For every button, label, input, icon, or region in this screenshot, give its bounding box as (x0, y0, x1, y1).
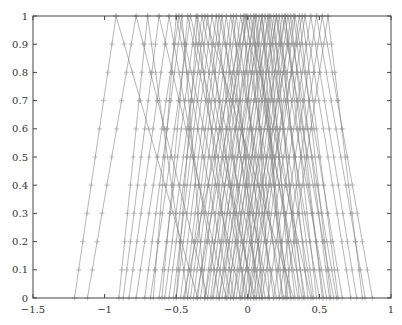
plus-marker (104, 183, 109, 188)
plus-marker (130, 267, 135, 272)
plus-marker (142, 183, 147, 188)
plus-marker (315, 42, 320, 47)
y-tick-label: 1 (22, 11, 28, 22)
plus-marker (278, 126, 283, 131)
plus-marker (139, 155, 144, 160)
plus-marker (174, 239, 179, 244)
plus-marker (89, 183, 94, 188)
x-tick-label: −1 (97, 304, 112, 315)
plus-marker (365, 267, 370, 272)
y-tick-label: 0.7 (12, 95, 28, 106)
y-tick-label: 0.4 (12, 180, 28, 191)
plus-marker (128, 239, 133, 244)
plus-marker (119, 267, 124, 272)
plus-marker (287, 183, 292, 188)
plus-marker (305, 126, 310, 131)
plus-marker (311, 70, 316, 75)
plus-marker (220, 70, 225, 75)
plus-marker (199, 98, 204, 103)
y-tick-label: 0.5 (12, 152, 28, 163)
plus-marker (84, 211, 89, 216)
plus-marker (129, 42, 134, 47)
plus-marker (128, 183, 133, 188)
plus-marker (146, 267, 151, 272)
plus-marker (350, 267, 355, 272)
plus-marker (230, 42, 235, 47)
plus-marker (114, 126, 119, 131)
plus-marker (80, 239, 85, 244)
plus-marker (153, 211, 158, 216)
y-tick-label: 0.1 (12, 264, 28, 275)
plus-marker (262, 126, 267, 131)
plus-marker (134, 239, 139, 244)
y-tick-label: 0.8 (12, 67, 28, 78)
plus-marker (171, 42, 176, 47)
plus-marker (317, 70, 322, 75)
x-tick-label: 1 (388, 304, 394, 315)
y-tick-label: 0.2 (12, 236, 28, 247)
plus-marker (135, 183, 140, 188)
plus-marker (334, 126, 339, 131)
plus-marker (339, 126, 344, 131)
plus-marker (344, 267, 349, 272)
plus-marker (321, 126, 326, 131)
plus-marker (97, 126, 102, 131)
plus-marker (131, 211, 136, 216)
y-tick-label: 0.3 (12, 208, 28, 219)
plus-marker (119, 98, 124, 103)
plus-marker (170, 267, 175, 272)
plus-marker (125, 211, 130, 216)
x-tick-label: −1.5 (21, 304, 45, 315)
plus-marker (304, 239, 309, 244)
plus-marker (180, 211, 185, 216)
plus-marker (206, 42, 211, 47)
plus-marker (329, 42, 334, 47)
plus-marker (101, 98, 106, 103)
plus-marker (310, 211, 315, 216)
plus-marker (247, 42, 252, 47)
plus-marker (153, 42, 158, 47)
y-tick-label: 0.6 (12, 123, 28, 134)
plus-marker (109, 42, 114, 47)
plus-marker (146, 211, 151, 216)
plus-marker (360, 239, 365, 244)
x-tick-label: 0.5 (311, 304, 327, 315)
plus-marker (95, 239, 100, 244)
x-tick-label: −0.5 (164, 304, 188, 315)
series-layer (72, 14, 375, 301)
plus-marker (325, 155, 330, 160)
plus-marker (163, 42, 168, 47)
plus-marker (179, 42, 184, 47)
plus-marker (353, 239, 358, 244)
plus-marker (122, 42, 127, 47)
plus-marker (184, 211, 189, 216)
plus-marker (134, 126, 139, 131)
plus-marker (303, 42, 308, 47)
plus-marker (325, 211, 330, 216)
plus-marker (138, 267, 143, 272)
y-tick-label: 0 (22, 293, 28, 304)
plus-marker (209, 126, 214, 131)
plus-marker (332, 70, 337, 75)
plus-marker (298, 267, 303, 272)
plus-marker (346, 183, 351, 188)
plus-marker (355, 211, 360, 216)
plus-marker (321, 183, 326, 188)
plus-marker (322, 98, 327, 103)
plus-marker (90, 267, 95, 272)
plus-marker (139, 70, 144, 75)
plus-marker (252, 183, 257, 188)
plus-marker (223, 155, 228, 160)
plus-marker (324, 70, 329, 75)
plus-marker (155, 98, 160, 103)
plus-marker (146, 98, 151, 103)
plus-marker (309, 155, 314, 160)
plus-marker (151, 183, 156, 188)
plus-marker (155, 239, 160, 244)
plus-marker (105, 70, 110, 75)
plus-marker (138, 211, 143, 216)
plus-marker (142, 126, 147, 131)
plus-marker (206, 70, 211, 75)
plus-marker (167, 211, 172, 216)
plus-marker (338, 155, 343, 160)
